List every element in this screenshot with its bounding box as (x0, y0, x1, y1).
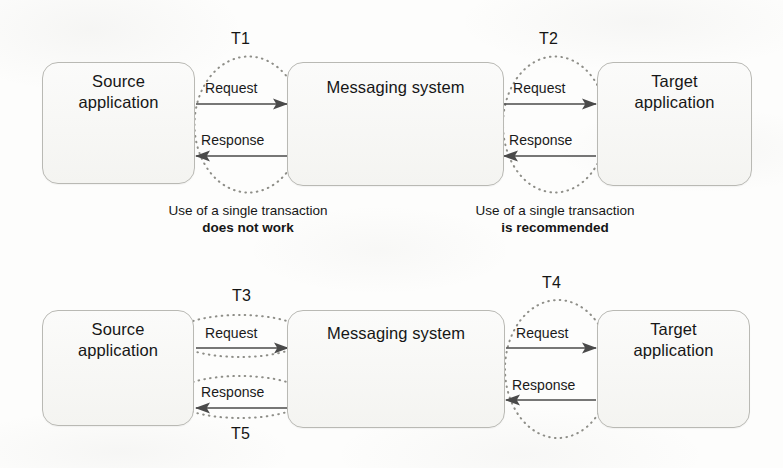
node-source-application-bottom-label: Source application (43, 319, 193, 361)
node-target-application-bottom-label: Target application (598, 319, 749, 361)
edge-label-request-t2: Request (513, 80, 566, 96)
transaction-label-t1: T1 (231, 30, 250, 48)
label-line-1: Target (598, 319, 749, 340)
label-line-1: Source (43, 71, 194, 92)
caption-t2-line-1: Use of a single transaction (455, 202, 655, 219)
node-target-application-bottom[interactable]: Target application (597, 310, 750, 428)
label-line-2: application (598, 92, 751, 113)
transaction-label-t4: T4 (542, 274, 561, 292)
node-target-application-top[interactable]: Target application (597, 62, 752, 186)
label-line-1: Source (43, 319, 193, 340)
label-line-2: application (43, 340, 193, 361)
label-line-2: application (598, 340, 749, 361)
edge-label-response-t5: Response (201, 384, 264, 400)
caption-t2: Use of a single transaction is recommend… (455, 202, 655, 236)
node-source-application-top[interactable]: Source application (42, 62, 195, 184)
node-source-application-top-label: Source application (43, 71, 194, 113)
edge-label-request-t4: Request (516, 325, 569, 341)
transaction-label-t5: T5 (231, 425, 250, 443)
label-line-1: Target (598, 71, 751, 92)
node-target-application-top-label: Target application (598, 71, 751, 113)
transaction-boundary-t2 (503, 57, 607, 193)
transaction-label-t2: T2 (539, 30, 558, 48)
node-source-application-bottom[interactable]: Source application (42, 310, 194, 426)
transaction-label-t3: T3 (232, 287, 251, 305)
edge-label-request-t3: Request (205, 325, 258, 341)
transaction-boundary-t4 (505, 300, 611, 438)
edge-label-response-t4: Response (512, 377, 575, 393)
caption-t1: Use of a single transaction does not wor… (148, 202, 348, 236)
edge-label-request-t1: Request (205, 80, 258, 96)
node-messaging-system-top-label: Messaging system (288, 77, 503, 98)
caption-t1-line-2: does not work (148, 219, 348, 236)
edge-label-response-t1: Response (201, 132, 264, 148)
caption-t1-line-1: Use of a single transaction (148, 202, 348, 219)
diagram-canvas: Source application Messaging system Targ… (0, 0, 783, 468)
label-line-2: application (43, 92, 194, 113)
caption-t2-line-2: is recommended (455, 219, 655, 236)
node-messaging-system-top[interactable]: Messaging system (287, 62, 504, 186)
node-messaging-system-bottom-label: Messaging system (288, 323, 504, 344)
edge-label-response-t2: Response (509, 132, 572, 148)
node-messaging-system-bottom[interactable]: Messaging system (287, 310, 505, 428)
